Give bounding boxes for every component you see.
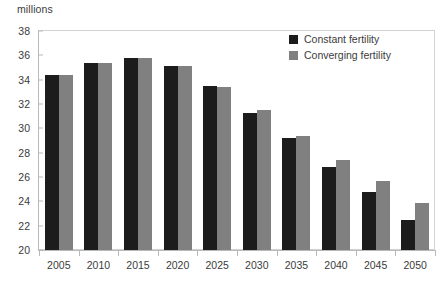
bar-constant-2020 xyxy=(164,66,178,250)
y-tick-label: 30 xyxy=(0,122,30,134)
x-tick-mark xyxy=(118,250,119,256)
x-tick-mark xyxy=(316,250,317,256)
x-tick-label: 2040 xyxy=(324,259,347,271)
x-tick-mark xyxy=(356,250,357,256)
y-tick-label: 24 xyxy=(0,195,30,207)
legend-item-constant-fertility: Constant fertility xyxy=(289,33,391,45)
x-tick-mark xyxy=(277,250,278,256)
bar-converging-2030 xyxy=(257,110,271,250)
legend-swatch-icon-constant xyxy=(289,35,298,44)
bar-converging-2050 xyxy=(415,203,429,250)
y-tick-label: 22 xyxy=(0,220,30,232)
x-tick-label: 2025 xyxy=(206,259,229,271)
x-tick-mark xyxy=(39,250,40,256)
bar-converging-2040 xyxy=(336,160,350,250)
legend: Constant fertility Converging fertility xyxy=(289,33,391,61)
legend-swatch-icon-converging xyxy=(289,51,298,60)
bar-converging-2010 xyxy=(98,63,112,250)
y-tick-label: 26 xyxy=(0,171,30,183)
bar-constant-2035 xyxy=(282,138,296,250)
x-tick-mark xyxy=(197,250,198,256)
bar-constant-2010 xyxy=(84,63,98,250)
legend-label-converging: Converging fertility xyxy=(304,49,391,61)
y-tick-label: 20 xyxy=(0,244,30,256)
x-tick-mark xyxy=(158,250,159,256)
x-tick-label: 2035 xyxy=(285,259,308,271)
bar-constant-2030 xyxy=(243,113,257,250)
x-tick-label: 2045 xyxy=(364,259,387,271)
bar-converging-2015 xyxy=(138,58,152,250)
legend-label-constant: Constant fertility xyxy=(304,33,379,45)
bar-constant-2040 xyxy=(322,167,336,250)
bar-converging-2035 xyxy=(296,136,310,250)
bar-constant-2005 xyxy=(45,75,59,250)
legend-item-converging-fertility: Converging fertility xyxy=(289,49,391,61)
bar-converging-2025 xyxy=(217,87,231,250)
y-tick-label: 32 xyxy=(0,98,30,110)
bar-constant-2025 xyxy=(203,86,217,250)
bar-converging-2045 xyxy=(376,181,390,250)
x-tick-label: 2005 xyxy=(47,259,70,271)
x-tick-mark xyxy=(237,250,238,256)
x-tick-mark xyxy=(79,250,80,256)
x-tick-mark xyxy=(395,250,396,256)
y-tick-label: 36 xyxy=(0,49,30,61)
bars-layer xyxy=(39,31,435,250)
y-tick-label: 28 xyxy=(0,147,30,159)
bar-converging-2005 xyxy=(59,75,73,250)
bar-constant-2050 xyxy=(401,220,415,250)
x-tick-label: 2015 xyxy=(126,259,149,271)
bar-chart: millions 20222426283032343638 2005201020… xyxy=(0,0,443,284)
x-tick-label: 2030 xyxy=(245,259,268,271)
bar-converging-2020 xyxy=(178,66,192,250)
y-tick-label: 34 xyxy=(0,74,30,86)
y-tick-label: 38 xyxy=(0,25,30,37)
bar-constant-2045 xyxy=(362,192,376,250)
x-tick-label: 2020 xyxy=(166,259,189,271)
bar-constant-2015 xyxy=(124,58,138,250)
x-tick-label: 2010 xyxy=(87,259,110,271)
y-axis-unit-label: millions xyxy=(17,3,53,15)
x-tick-label: 2050 xyxy=(404,259,427,271)
x-tick-mark xyxy=(435,250,436,256)
